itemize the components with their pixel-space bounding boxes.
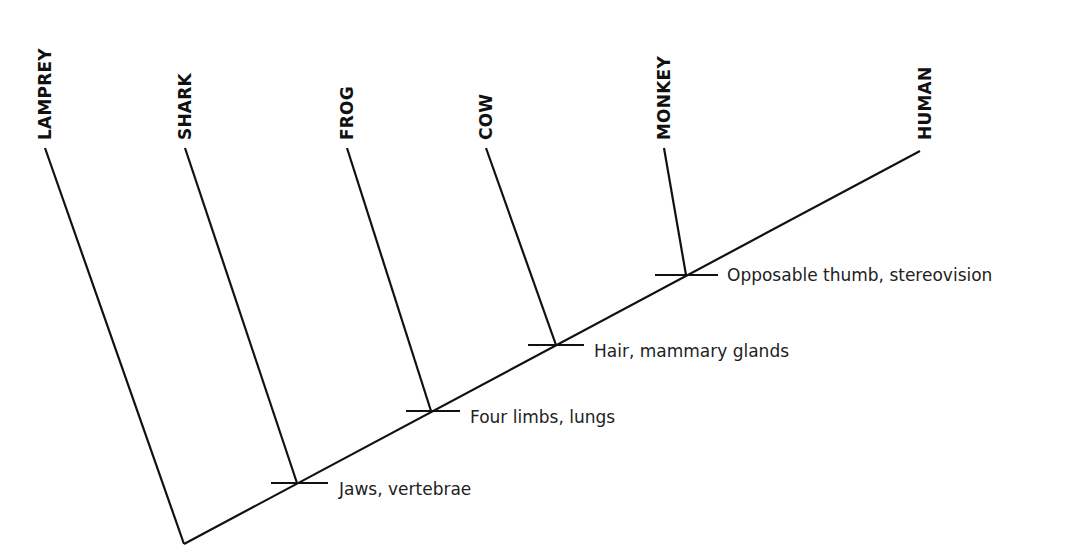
branch-frog	[347, 148, 431, 411]
branch-shark	[185, 148, 297, 483]
taxon-label-human: HUMAN	[915, 67, 935, 140]
branch-cow	[486, 148, 556, 345]
trait-label-hair: Hair, mammary glands	[594, 341, 789, 361]
branch-lamprey	[45, 148, 184, 544]
taxon-label-frog: FROG	[337, 86, 357, 140]
taxon-label-cow: COW	[476, 94, 496, 140]
taxon-label-monkey: MONKEY	[654, 56, 674, 140]
cladogram: LAMPREY SHARK FROG COW MONKEY HUMAN Jaws…	[0, 0, 1076, 559]
taxon-label-lamprey: LAMPREY	[35, 48, 55, 140]
trait-label-limbs: Four limbs, lungs	[470, 407, 615, 427]
trait-label-jaws: Jaws, vertebrae	[338, 479, 471, 499]
main-axis-branch	[184, 151, 920, 544]
taxon-label-shark: SHARK	[175, 72, 195, 140]
trait-label-thumb: Opposable thumb, stereovision	[727, 265, 992, 285]
branch-monkey	[664, 148, 686, 275]
